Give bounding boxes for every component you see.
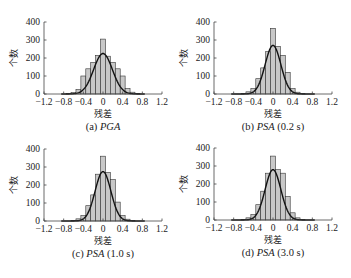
chart-panel-d: 0100200300400−1.2−0.8−0.400.40.81.2个数残差(…: [175, 139, 350, 278]
y-axis-label: 个数: [178, 49, 189, 67]
y-axis-label: 个数: [8, 49, 19, 67]
x-tick-label: 1.2: [156, 224, 168, 234]
y-axis-label: 个数: [8, 176, 19, 194]
chart-panel-c: 0100200300400−1.2−0.8−0.400.40.81.2个数残差(…: [0, 139, 175, 278]
x-tick-label: 0.4: [117, 97, 129, 107]
subplot-caption: (c) PSA (1.0 s): [72, 248, 134, 260]
x-tick-label: 0.4: [287, 97, 299, 107]
y-tick-label: 400: [26, 144, 41, 154]
x-tick-label: −1.2: [205, 97, 222, 107]
x-tick-label: 1.2: [156, 97, 168, 107]
histogram-bar: [271, 156, 276, 220]
x-tick-label: 1.2: [326, 223, 338, 233]
histogram-c: 0100200300400−1.2−0.8−0.400.40.81.2个数残差(…: [0, 139, 175, 278]
y-tick-label: 400: [196, 17, 211, 27]
x-axis-label: 残差: [264, 234, 282, 245]
y-tick-label: 200: [196, 53, 211, 63]
x-tick-label: −0.4: [245, 97, 262, 107]
x-tick-label: 0: [101, 97, 106, 107]
histogram-b: 0100200300400−1.2−0.8−0.400.40.81.2个数残差(…: [175, 0, 351, 139]
histogram-bar: [280, 55, 285, 94]
y-tick-label: 400: [196, 143, 211, 153]
histogram-bars: [241, 28, 305, 94]
y-tick-label: 100: [26, 71, 41, 81]
x-tick-label: 0.4: [117, 224, 129, 234]
x-tick-label: −0.8: [55, 97, 72, 107]
y-tick-label: 100: [26, 198, 41, 208]
subplot-caption: (a) PGA: [86, 121, 121, 133]
x-tick-label: −0.8: [225, 223, 242, 233]
x-tick-label: 0.4: [287, 223, 299, 233]
y-tick-label: 200: [196, 179, 211, 189]
histogram-bars: [241, 156, 305, 220]
y-tick-label: 300: [196, 161, 211, 171]
histogram-bar: [101, 156, 106, 221]
x-tick-label: 0.8: [306, 223, 318, 233]
x-tick-label: −0.4: [245, 223, 262, 233]
x-tick-label: −0.4: [75, 97, 92, 107]
histogram-bars: [66, 39, 140, 94]
y-tick-label: 100: [196, 197, 211, 207]
y-axis-label: 个数: [178, 175, 189, 193]
subplot-caption: (b) PSA (0.2 s): [242, 121, 305, 133]
x-axis-label: 残差: [94, 235, 112, 246]
x-tick-label: 0.8: [306, 97, 318, 107]
histogram-bar: [271, 28, 276, 94]
x-tick-label: −0.8: [55, 224, 72, 234]
subplot-caption: (d) PSA (3.0 s): [242, 247, 305, 259]
x-tick-label: −1.2: [35, 224, 52, 234]
x-tick-label: 0: [101, 224, 106, 234]
y-tick-label: 100: [196, 71, 211, 81]
x-axis-label: 残差: [94, 108, 112, 119]
x-tick-label: 0.8: [136, 97, 148, 107]
x-tick-label: 0: [271, 97, 276, 107]
x-tick-label: 0: [271, 223, 276, 233]
chart-panel-b: 0100200300400−1.2−0.8−0.400.40.81.2个数残差(…: [175, 0, 350, 139]
y-tick-label: 400: [26, 17, 41, 27]
x-tick-label: −1.2: [35, 97, 52, 107]
chart-panel-a: 0100200300400−1.2−0.8−0.400.40.81.2个数残差(…: [0, 0, 175, 139]
x-tick-label: 0.8: [136, 224, 148, 234]
histogram-bars: [71, 156, 135, 221]
histogram-a: 0100200300400−1.2−0.8−0.400.40.81.2个数残差(…: [0, 0, 175, 139]
histogram-bar: [101, 39, 106, 94]
y-tick-label: 300: [196, 35, 211, 45]
y-tick-label: 300: [26, 35, 41, 45]
y-tick-label: 300: [26, 162, 41, 172]
y-tick-label: 200: [26, 180, 41, 190]
x-tick-label: 1.2: [326, 97, 338, 107]
histogram-d: 0100200300400−1.2−0.8−0.400.40.81.2个数残差(…: [175, 139, 351, 278]
x-axis-label: 残差: [264, 108, 282, 119]
x-tick-label: −0.8: [225, 97, 242, 107]
y-tick-label: 200: [26, 53, 41, 63]
x-tick-label: −1.2: [205, 223, 222, 233]
x-tick-label: −0.4: [75, 224, 92, 234]
